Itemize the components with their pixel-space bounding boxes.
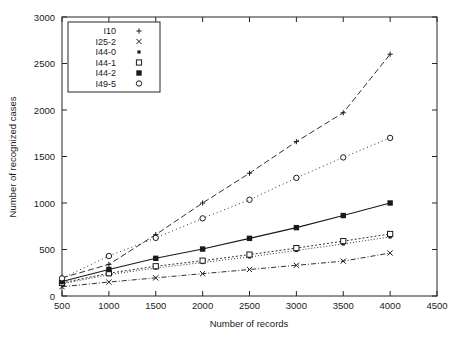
y-tick-label: 0 xyxy=(50,291,55,302)
legend-label-i25-2: I25-2 xyxy=(95,37,116,47)
legend-marker-i44-0 xyxy=(137,50,140,53)
chart-canvas: 50010001500200025003000350040004500 0500… xyxy=(0,0,459,340)
x-tick-label: 3000 xyxy=(286,300,307,311)
series-i49-5 xyxy=(59,135,393,281)
x-tick-label: 2500 xyxy=(239,300,260,311)
legend-marker-i44-2 xyxy=(136,70,141,75)
y-tick-label: 1500 xyxy=(34,151,55,162)
legend-label-i44-1: I44-1 xyxy=(95,58,116,68)
x-tick-label: 500 xyxy=(54,300,70,311)
legend-label-i44-0: I44-0 xyxy=(95,47,116,57)
x-axis-title: Number of records xyxy=(210,318,289,329)
y-tick-label: 2500 xyxy=(34,58,55,69)
y-tick-label: 500 xyxy=(39,244,55,255)
y-axis-title: Number of recognized cases xyxy=(7,96,18,217)
chart-figure: 50010001500200025003000350040004500 0500… xyxy=(0,0,459,340)
x-tick-label: 3500 xyxy=(333,300,354,311)
x-tick-label: 4000 xyxy=(380,300,401,311)
y-tick-label: 2000 xyxy=(34,105,55,116)
series-markers xyxy=(59,135,393,281)
x-tick-label: 4500 xyxy=(426,300,447,311)
y-tick-label: 3000 xyxy=(34,12,55,23)
x-tick-label: 2000 xyxy=(192,300,213,311)
y-tick-label: 1000 xyxy=(34,198,55,209)
legend-label-i49-5: I49-5 xyxy=(95,79,116,89)
legend-marker-i44-1 xyxy=(136,60,141,65)
x-tick-label: 1500 xyxy=(145,300,166,311)
legend-label-i10: I10 xyxy=(103,26,116,36)
chart-legend: I10I25-2I44-0I44-1I44-2I49-5 xyxy=(68,22,160,92)
legend-label-i44-2: I44-2 xyxy=(95,68,116,78)
x-tick-label: 1000 xyxy=(98,300,119,311)
legend-marker-i49-5 xyxy=(136,81,141,86)
